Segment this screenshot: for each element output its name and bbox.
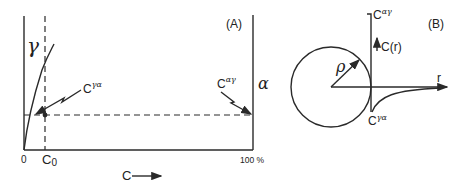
origin-label: 0 — [21, 154, 27, 165]
c0-label: C0 — [42, 152, 57, 168]
r-axis-label: r — [437, 71, 441, 85]
diagram: γ Cγα Cαγ α (A) 0 C0 100 % --> C ρ — [0, 0, 469, 183]
c0-point — [43, 113, 48, 118]
radius-label: ρ — [335, 57, 346, 76]
panel-a: γ Cγα Cαγ α (A) 0 C0 100 % --> C — [21, 15, 269, 183]
alpha-label: α — [258, 74, 269, 93]
cr-label: C(r) — [381, 40, 402, 54]
c-gamma-alpha-arrow — [36, 90, 81, 114]
panel-a-label: (A) — [226, 17, 242, 31]
gamma-label: γ — [27, 34, 39, 58]
c-gamma-alpha-label: Cγα — [83, 80, 102, 96]
b-c-alpha-gamma-label: Cαγ — [373, 7, 392, 22]
c-alpha-gamma-label: Cαγ — [217, 75, 236, 91]
x-axis-label: C — [122, 168, 131, 183]
gamma-curve — [24, 44, 54, 150]
b-c-gamma-alpha-label: Cγα — [368, 113, 387, 128]
concentration-curve — [372, 88, 440, 112]
hundred-percent-label: 100 % — [240, 155, 265, 165]
panel-b-label: (B) — [428, 17, 444, 31]
panel-b: ρ r C(r) Cαγ Cγα (B) — [291, 7, 447, 128]
c-alpha-gamma-arrow — [221, 92, 251, 114]
